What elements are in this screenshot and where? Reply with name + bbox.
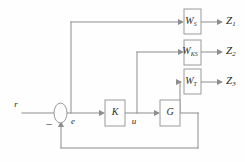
arrowhead-to-z1	[217, 19, 223, 25]
diagram-canvas: WS WKS WT K G r e u – Z1 Z2 Z3	[0, 0, 245, 162]
summing-junction	[54, 103, 67, 123]
control-signal-label: u	[132, 116, 137, 126]
arrowhead-into-plant	[154, 110, 160, 116]
reference-signal-label: r	[14, 99, 18, 109]
arrowhead-into-wt	[176, 79, 182, 85]
arrowhead-into-controller	[99, 110, 105, 116]
controller-label: K	[111, 106, 120, 117]
control-block-diagram: WS WKS WT K G r e u – Z1 Z2 Z3	[0, 0, 245, 162]
plant-label: G	[166, 106, 173, 117]
arrowhead-into-ws	[178, 19, 184, 25]
output-z2-label: Z2	[226, 44, 236, 58]
arrowhead-to-z2	[217, 49, 223, 55]
output-z1-label: Z1	[226, 14, 236, 28]
error-signal-label: e	[71, 116, 75, 126]
negative-sign-label: –	[45, 117, 52, 129]
output-z3-label: Z3	[226, 74, 236, 88]
arrowhead-to-z3	[217, 79, 223, 85]
